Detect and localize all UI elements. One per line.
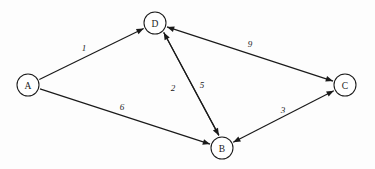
graph-canvas: ADBC 162593 [0, 0, 375, 169]
node-c[interactable]: C [334, 74, 356, 96]
edge-line [167, 27, 333, 81]
arrowhead-to-d [136, 29, 144, 35]
node-a[interactable]: A [17, 74, 39, 96]
edge-a-d [39, 29, 143, 80]
edge-line [233, 91, 334, 143]
node-label: D [152, 19, 159, 29]
arrowhead-to-c [326, 91, 334, 97]
edge-a-b [40, 89, 210, 145]
node-label: B [219, 144, 225, 154]
arrowhead-to-b [233, 136, 241, 142]
node-b[interactable]: B [211, 137, 233, 159]
edge-weight-b-d: 5 [200, 80, 205, 90]
arrowhead-to-c [325, 76, 333, 82]
node-label: C [342, 81, 348, 91]
node-d[interactable]: D [144, 12, 166, 34]
arrowhead-to-d [167, 26, 175, 32]
weight-layer: 162593 [82, 39, 286, 115]
arrowhead-to-d [164, 33, 170, 41]
edge-weight-a-d: 1 [82, 43, 87, 53]
arrowhead-to-b [202, 139, 210, 145]
edge-weight-a-b: 6 [120, 102, 125, 112]
edge-b-c [233, 91, 334, 143]
edge-d-c [167, 26, 333, 81]
edge-weight-d-b: 2 [171, 83, 176, 93]
edge-weight-d-c: 9 [248, 39, 253, 49]
edge-line [39, 29, 143, 80]
edge-weight-b-c: 3 [280, 105, 286, 115]
graph-diagram: ADBC 162593 [0, 0, 375, 169]
edge-line [40, 89, 210, 144]
node-label: A [25, 81, 32, 91]
